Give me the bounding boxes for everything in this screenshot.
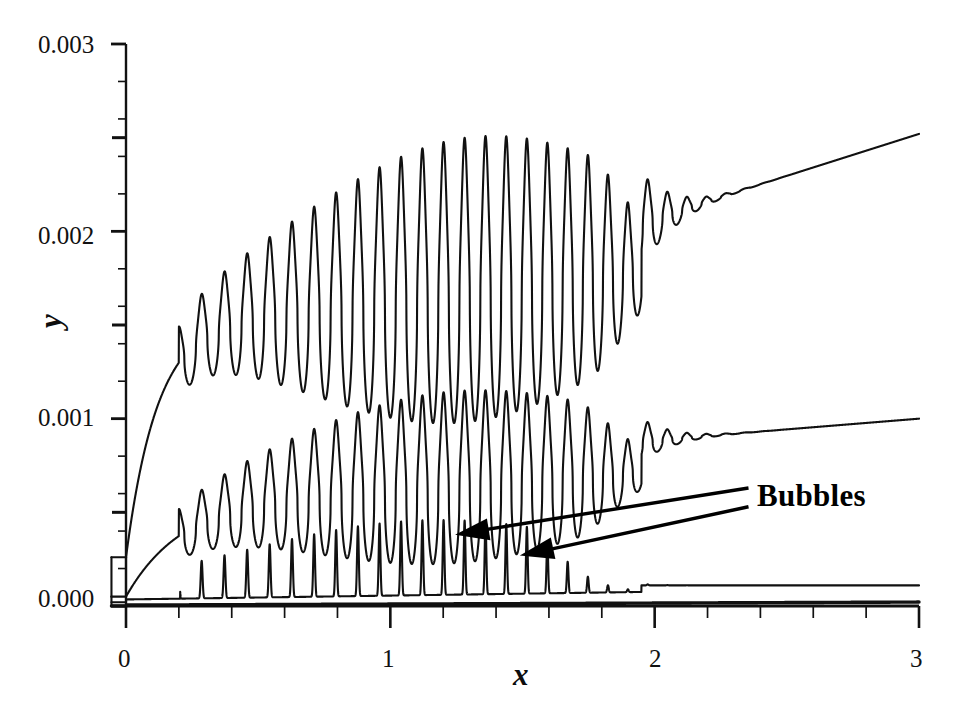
x-tick-label-2: 2	[649, 645, 662, 673]
y-tick-label-0003: 0.003	[38, 31, 94, 59]
x-tick-label-3: 3	[910, 645, 923, 673]
bubbles-annotation-label: Bubbles	[757, 478, 866, 514]
y-tick-label-0001: 0.001	[38, 404, 94, 432]
y-tick-label-0000: 0.000	[38, 585, 94, 613]
x-tick-label-0: 0	[118, 645, 131, 673]
x-axis-label: x	[513, 657, 529, 693]
chart-figure: 0.003 0.002 0.001 0.000 0 1 2 3 y x Bubb…	[0, 0, 961, 717]
x-tick-label-1: 1	[382, 645, 395, 673]
chart-plot-area	[0, 0, 961, 717]
y-tick-label-0002: 0.002	[38, 222, 94, 250]
y-axis-label: y	[33, 314, 69, 328]
